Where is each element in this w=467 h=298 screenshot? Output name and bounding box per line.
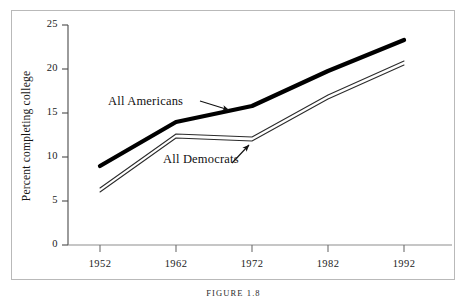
y-tick-label-10: 10 (32, 150, 58, 161)
x-axis-ticks (100, 245, 404, 252)
x-tick-label-1952: 1952 (70, 258, 130, 269)
figure-caption: FIGURE 1.8 (0, 288, 467, 298)
y-axis-ticks (62, 25, 68, 245)
series-line-all-democrats (100, 61, 404, 192)
chart-plot-area: Percent completing college 25 20 15 10 5… (0, 0, 467, 298)
x-tick-label-1992: 1992 (374, 258, 434, 269)
x-tick-label-1962: 1962 (146, 258, 206, 269)
y-tick-label-5: 5 (32, 194, 58, 205)
annotation-arrow-all-americans (200, 101, 229, 110)
y-tick-label-0: 0 (32, 238, 58, 249)
x-tick-label-1982: 1982 (298, 258, 358, 269)
x-tick-label-1972: 1972 (222, 258, 282, 269)
y-axis-title: Percent completing college (20, 61, 32, 211)
y-tick-label-15: 15 (32, 106, 58, 117)
series-label-all-democrats: All Democrats (163, 152, 239, 167)
y-tick-label-20: 20 (32, 62, 58, 73)
series-label-all-americans: All Americans (108, 94, 183, 109)
figure-root: Percent completing college 25 20 15 10 5… (0, 0, 467, 298)
chart-svg (0, 0, 467, 298)
y-tick-label-25: 25 (32, 18, 58, 29)
